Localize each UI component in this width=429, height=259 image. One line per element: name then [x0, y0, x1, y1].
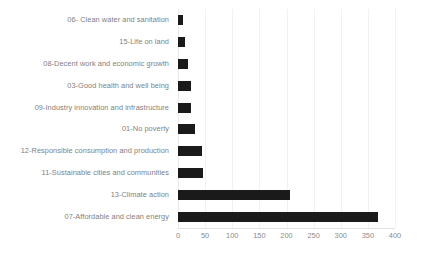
category-axis-labels: 06- Clean water and sanitation 15-Life o… [0, 9, 174, 228]
bar [178, 212, 378, 222]
plot-area [178, 9, 395, 228]
bar [178, 168, 203, 178]
bar [178, 146, 202, 156]
x-tick-label: 0 [176, 231, 180, 240]
x-tick-label: 200 [280, 231, 292, 240]
bar-row [178, 162, 395, 184]
bar-row [178, 97, 395, 119]
bar [178, 37, 185, 47]
category-label: 12-Responsible consumption and productio… [0, 140, 174, 162]
bar [178, 190, 290, 200]
category-label: 15-Life on land [0, 31, 174, 53]
x-tick-label: 50 [201, 231, 209, 240]
x-tick-label: 250 [307, 231, 319, 240]
bar [178, 15, 183, 25]
bar-series [178, 9, 395, 228]
bar-row [178, 53, 395, 75]
x-axis-line [178, 228, 395, 229]
x-axis-tick-labels: 050100150200250300350400 [178, 231, 395, 245]
bar-row [178, 184, 395, 206]
category-label: 03-Good health and well being [0, 75, 174, 97]
category-label: 11-Sustainable cities and communities [0, 162, 174, 184]
category-label: 07-Affordable and clean energy [0, 206, 174, 228]
category-label: 01-No poverty [0, 119, 174, 141]
bar-row [178, 31, 395, 53]
x-tick-label: 150 [253, 231, 265, 240]
category-label: 09-Industry innovation and infrastructur… [0, 97, 174, 119]
x-tick-label: 400 [389, 231, 401, 240]
bar [178, 59, 188, 69]
x-tick-label: 300 [335, 231, 347, 240]
bar-row [178, 9, 395, 31]
horizontal-bar-chart: 06- Clean water and sanitation 15-Life o… [0, 0, 429, 259]
bar-row [178, 75, 395, 97]
bar [178, 124, 195, 134]
category-label: 13-Climate action [0, 184, 174, 206]
bar-row [178, 140, 395, 162]
category-label: 08-Decent work and economic growth [0, 53, 174, 75]
x-tick-label: 100 [226, 231, 238, 240]
x-tick-label: 350 [362, 231, 374, 240]
gridline [395, 9, 396, 228]
category-label: 06- Clean water and sanitation [0, 9, 174, 31]
bar-row [178, 119, 395, 141]
bar [178, 103, 191, 113]
bar-row [178, 206, 395, 228]
bar [178, 81, 191, 91]
